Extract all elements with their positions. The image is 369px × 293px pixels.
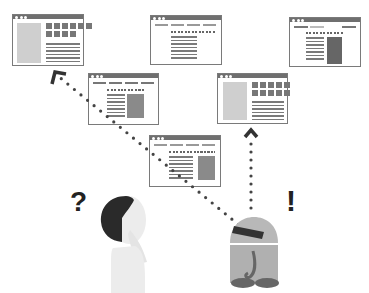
robot-foot-left: [231, 278, 255, 288]
robot-foot-right: [255, 278, 279, 288]
exclamation-mark-icon: !: [286, 184, 296, 218]
path-to-window-1: [0, 0, 369, 293]
robot-divider: [230, 243, 278, 245]
torso: [111, 246, 145, 293]
question-mark-icon: ?: [70, 186, 87, 218]
human-figure: [95, 190, 155, 293]
robot-figure: [222, 215, 286, 290]
